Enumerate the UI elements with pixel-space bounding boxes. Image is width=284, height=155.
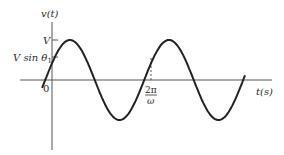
initial-value-label: V sin θ1 bbox=[13, 52, 52, 65]
peak-label: V bbox=[43, 35, 52, 46]
y-axis-label: v(t) bbox=[41, 8, 59, 19]
x-axis-label: t(s) bbox=[256, 86, 273, 97]
sine-wave-chart: v(t) t(s) V V sin θ1 0 2π ω bbox=[0, 0, 284, 155]
period-numerator: 2π bbox=[145, 85, 157, 95]
period-denominator: ω bbox=[147, 96, 155, 106]
origin-label: 0 bbox=[43, 83, 49, 94]
